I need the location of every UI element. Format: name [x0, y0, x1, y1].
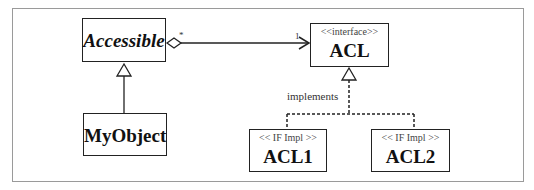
generalization-triangle-icon [117, 64, 131, 76]
stereotype-label: << IF Impl >> [372, 132, 449, 143]
class-acl2[interactable]: << IF Impl >> ACL2 [371, 129, 450, 172]
stereotype-label: << IF Impl >> [250, 132, 326, 143]
class-name: ACL2 [372, 147, 449, 166]
stereotype-label: <<interface>> [311, 26, 388, 37]
realization-triangle-icon [342, 68, 356, 80]
class-accessible[interactable]: Accessible [82, 18, 166, 62]
class-acl[interactable]: <<interface>> ACL [310, 23, 389, 67]
implements-label: implements [287, 90, 338, 102]
class-myobject[interactable]: MyObject [83, 113, 167, 156]
multiplicity-many: * [179, 30, 184, 40]
class-name: ACL1 [250, 147, 326, 166]
class-name: ACL [311, 41, 388, 60]
class-name: MyObject [84, 126, 166, 145]
class-acl1[interactable]: << IF Impl >> ACL1 [249, 129, 327, 172]
multiplicity-one: 1 [295, 31, 300, 41]
class-name: Accessible [83, 31, 165, 50]
